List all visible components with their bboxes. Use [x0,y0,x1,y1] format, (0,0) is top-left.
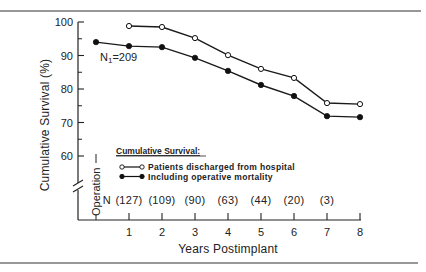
series-discharged [126,23,362,106]
y-tick-label: 60 [61,150,73,162]
filled-circle-marker [93,39,98,44]
x-tick-label: 6 [291,226,297,238]
filled-circle-marker [291,93,296,98]
n1-annotation: N1=209 [100,51,137,65]
open-circle-icon [120,165,124,169]
y-tick-label: 70 [61,117,73,129]
risk-count: (127) [115,194,142,206]
x-tick-label: 7 [324,226,330,238]
risk-count: (20) [284,194,305,206]
y-tick-label: 90 [61,50,73,62]
legend-entry-including-mortality: Including operative mortality [120,172,273,182]
open-circle-marker [291,75,296,80]
open-circle-marker [192,35,197,40]
legend-label: Patients discharged from hospital [148,162,295,172]
legend-label: Including operative mortality [148,172,273,182]
open-circle-marker [357,101,362,106]
y-tick-label: 80 [61,83,73,95]
y-tick-label: 100 [55,16,73,28]
open-circle-marker [324,100,329,105]
filled-circle-marker [126,43,131,48]
filled-circle-marker [225,68,230,73]
open-circle-marker [159,24,164,29]
open-circle-marker [225,53,230,58]
open-circle-icon [140,165,144,169]
patients-at-risk-row: N(127)(109)(90)(63)(44)(20)(3) [103,194,334,206]
risk-count: (63) [218,194,239,206]
survival-chart: 10090807060 12345678 Operation Cumulativ… [0,0,426,272]
filled-circle-marker [324,113,329,118]
x-axis-title: Years Postimplant [178,242,278,256]
risk-count: (109) [148,194,175,206]
y-axis-title: Cumulative Survival (%) [38,59,52,192]
x-tick-label: 2 [159,226,165,238]
risk-count: (3) [320,194,334,206]
open-circle-marker [258,66,263,71]
legend: Cumulative Survival:Patients discharged … [116,146,295,182]
x-tick-label: 8 [357,226,363,238]
risk-count: (44) [251,194,272,206]
filled-circle-icon [120,174,124,178]
filled-circle-icon [140,174,144,178]
x-axis: 12345678 [78,213,363,238]
risk-prefix: N [103,194,111,206]
x-tick-label: 4 [225,226,231,238]
x-tick-label: 5 [258,226,264,238]
filled-circle-marker [192,55,197,60]
legend-title: Cumulative Survival: [116,146,200,156]
series-layer [93,23,362,119]
open-circle-marker [126,23,131,28]
risk-count: (90) [185,194,206,206]
operation-marker: Operation [90,154,102,216]
operation-label: Operation [90,168,102,216]
filled-circle-marker [159,44,164,49]
x-tick-label: 3 [192,226,198,238]
x-tick-label: 1 [126,226,132,238]
filled-circle-marker [258,82,263,87]
legend-entry-discharged: Patients discharged from hospital [120,162,295,172]
y-axis: 10090807060 [55,16,84,220]
filled-circle-marker [357,114,362,119]
